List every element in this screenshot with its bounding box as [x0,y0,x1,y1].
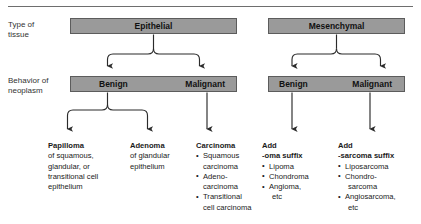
box-epithelial[interactable]: Epithelial [70,18,237,34]
list-item: Squamous carcinoma [196,151,266,172]
sarcoma-item2-line1: Chondro- [345,172,377,181]
carcinoma-item2-line1: Adeno- [203,172,228,181]
list-item: Angioma, etc [262,182,334,203]
box-mesenchymal[interactable]: Mesenchymal [268,18,405,34]
column-add-oma-heading1: Add [262,141,334,151]
column-adenoma-heading: Adenoma [130,141,196,151]
sarcoma-item3-line2: etc [345,203,418,213]
column-add-oma: Add -oma suffix Lipoma Chondroma Angioma… [262,141,334,203]
column-papilloma-line3: transitional cell [48,172,124,182]
column-add-sarcoma: Add -sarcoma suffix Liposarcoma Chondro-… [338,141,418,213]
brace-epithelial-right [154,49,200,67]
box-behavior-mesenchymal[interactable]: Benign Malignant [268,76,405,92]
box-mesenchymal-label: Mesenchymal [309,21,365,31]
oma-item1: Lipoma [269,162,294,171]
column-add-oma-heading2: -oma suffix [262,151,334,161]
sarcoma-item2-line2: sarcoma [345,182,418,192]
column-add-oma-list: Lipoma Chondroma Angioma, etc [262,162,334,203]
oma-item3-line2: etc [269,192,334,202]
list-item: Chondroma [262,172,334,182]
brace-benign-left-adenoma [108,105,148,130]
column-papilloma-line4: epithelium [48,182,124,192]
box-epithelial-label: Epithelial [135,21,173,31]
list-item: Lipoma [262,162,334,172]
carcinoma-item3-line1: Transitional [203,192,242,201]
box-mesenchymal-malignant-label: Malignant [352,79,392,89]
oma-item2: Chondroma [269,172,309,181]
list-item: Transitional cell carcinoma [196,192,266,213]
list-item: Chondro- sarcoma [338,172,418,193]
column-papilloma-line2: glandular, or [48,162,124,172]
column-papilloma-line1: of squamous, [48,151,124,161]
carcinoma-item3-line2: cell carcinoma [203,203,266,213]
brace-benign-left-papilloma [68,93,108,130]
box-epithelial-malignant-label: Malignant [185,79,225,89]
column-carcinoma-list: Squamous carcinoma Adeno- carcinoma Tran… [196,151,266,213]
brace-mesenchymal-right [337,49,381,67]
list-item: Liposarcoma [338,162,418,172]
sarcoma-item1: Liposarcoma [345,162,388,171]
list-item: Adeno- carcinoma [196,172,266,193]
oma-item3-line1: Angioma, [269,182,301,191]
column-adenoma-line2: epithelium [130,162,196,172]
column-adenoma-line1: of glandular [130,151,196,161]
brace-mesenchymal-left [292,49,337,67]
box-epithelial-benign-label: Benign [99,79,128,89]
column-papilloma-heading: Papilloma [48,141,124,151]
column-adenoma: Adenoma of glandular epithelium [130,141,196,172]
column-papilloma: Papilloma of squamous, glandular, or tra… [48,141,124,192]
column-carcinoma: Carcinoma Squamous carcinoma Adeno- carc… [196,141,266,213]
neoplasm-classification-diagram: Type of tissue Behavior of neoplasm [0,0,421,224]
carcinoma-item1-line1: Squamous [203,151,239,160]
sarcoma-item3-line1: Angiosarcoma, [345,192,396,201]
carcinoma-item2-line2: carcinoma [203,182,266,192]
carcinoma-item1-line2: carcinoma [203,162,266,172]
column-carcinoma-heading: Carcinoma [196,141,266,151]
box-behavior-epithelial[interactable]: Benign Malignant [70,76,237,92]
box-mesenchymal-benign-label: Benign [279,79,308,89]
list-item: Angiosarcoma, etc [338,192,418,213]
column-add-sarcoma-heading1: Add [338,141,418,151]
column-add-sarcoma-list: Liposarcoma Chondro- sarcoma Angiosarcom… [338,162,418,213]
column-add-sarcoma-heading2: -sarcoma suffix [338,151,418,161]
brace-epithelial-left [108,35,154,67]
